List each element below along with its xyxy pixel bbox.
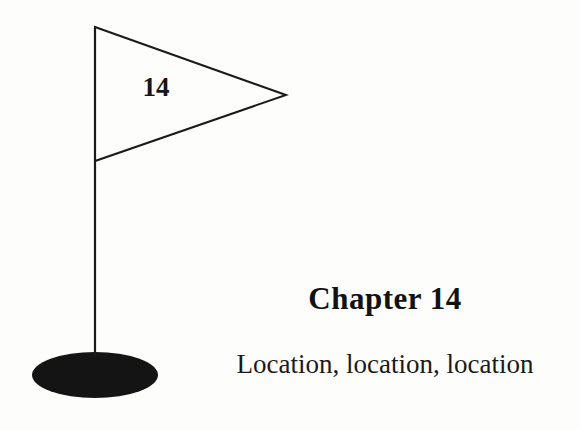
flag-base-ellipse (32, 352, 158, 398)
chapter-subtitle: Location, location, location (200, 349, 570, 379)
chapter-heading: Chapter 14 (200, 282, 570, 316)
flag-pennant-triangle (95, 27, 286, 161)
flag-number-label: 14 (132, 74, 180, 101)
chapter-title-page: 14 Chapter 14 Location, location, locati… (0, 0, 580, 430)
chapter-text-block: Chapter 14 Location, location, location (200, 282, 570, 379)
